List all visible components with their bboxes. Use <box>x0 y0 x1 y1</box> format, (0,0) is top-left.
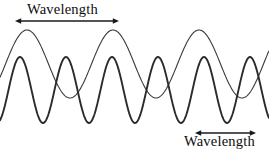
bottom-wavelength-label: Wavelength <box>184 134 255 149</box>
top-wavelength-label: Wavelength <box>27 2 98 17</box>
wavelength-diagram: Wavelength Wavelength <box>0 0 269 152</box>
canvas-background <box>0 0 269 152</box>
wave-plot-canvas <box>0 0 269 152</box>
